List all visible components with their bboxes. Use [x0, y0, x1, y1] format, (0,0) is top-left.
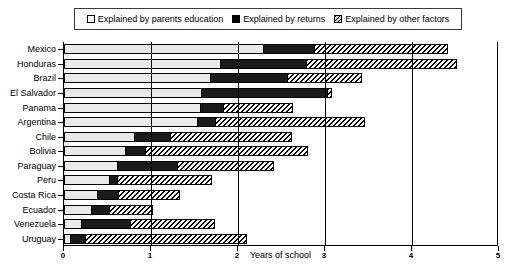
- bar-segment-parents-education: [64, 234, 71, 244]
- bar-segment-other-factors: [118, 175, 212, 185]
- legend-label: Explained by parents education: [98, 15, 224, 24]
- table-row: [64, 44, 497, 54]
- stacked-bar-chart: Explained by parents education Explained…: [0, 0, 514, 274]
- bar-segment-other-factors: [119, 190, 180, 200]
- y-axis-tick-label: Chile: [35, 133, 56, 142]
- bar-segment-returns: [98, 190, 119, 200]
- gridline: [151, 42, 152, 245]
- y-axis-tick-label: Brazil: [33, 74, 56, 83]
- white-square-icon: [87, 15, 95, 23]
- chart-legend: Explained by parents education Explained…: [74, 8, 462, 30]
- x-axis-title: Years of school: [250, 251, 311, 260]
- bar-segment-returns: [92, 205, 110, 215]
- bar-segment-returns: [126, 146, 146, 156]
- table-row: [64, 190, 497, 200]
- bar-segment-parents-education: [64, 117, 198, 127]
- table-row: [64, 161, 497, 171]
- bar-segment-other-factors: [131, 219, 215, 229]
- bar-segment-returns: [135, 132, 171, 142]
- bar-segment-returns: [201, 103, 224, 113]
- bar-segment-returns: [110, 175, 118, 185]
- gridline: [238, 42, 239, 245]
- bar-segment-parents-education: [64, 88, 202, 98]
- bar-segment-parents-education: [64, 132, 135, 142]
- y-axis-labels: MexicoHondurasBrazilEl SalvadorPanamaArg…: [0, 42, 63, 246]
- bar-rows: [64, 42, 497, 245]
- legend-label: Explained by other factors: [345, 15, 449, 24]
- y-axis-tick-label: Argentina: [17, 118, 56, 127]
- bar-segment-other-factors: [171, 132, 292, 142]
- plot-area: [63, 42, 498, 246]
- table-row: [64, 117, 497, 127]
- y-axis-tick-label: Bolivia: [29, 147, 56, 156]
- bar-segment-returns: [198, 117, 216, 127]
- bar-segment-other-factors: [110, 205, 153, 215]
- bar-segment-returns: [211, 73, 288, 83]
- y-axis-tick-label: Mexico: [27, 45, 56, 54]
- table-row: [64, 205, 497, 215]
- table-row: [64, 175, 497, 185]
- bar-segment-parents-education: [64, 205, 92, 215]
- y-axis-tick-label: Panama: [22, 104, 56, 113]
- table-row: [64, 59, 497, 69]
- table-row: [64, 73, 497, 83]
- y-axis-tick-label: Peru: [37, 176, 56, 185]
- bar-segment-parents-education: [64, 146, 126, 156]
- y-axis-tick-label: Honduras: [17, 60, 56, 69]
- bar-segment-parents-education: [64, 161, 118, 171]
- bar-segment-returns: [71, 234, 86, 244]
- bar-segment-parents-education: [64, 190, 98, 200]
- y-axis-tick-label: El Salvador: [10, 89, 56, 98]
- x-axis-tick-label: 4: [409, 252, 413, 260]
- bar-segment-other-factors: [328, 88, 332, 98]
- bar-segment-returns: [202, 88, 327, 98]
- x-axis-tick-label: 0: [61, 252, 65, 260]
- x-axis-tick-label: 1: [148, 252, 152, 260]
- bar-segment-other-factors: [178, 161, 274, 171]
- bar-segment-other-factors: [86, 234, 247, 244]
- table-row: [64, 146, 497, 156]
- y-axis-tick-label: Costa Rica: [12, 191, 56, 200]
- legend-item-other-factors: Explained by other factors: [334, 15, 449, 24]
- table-row: [64, 234, 497, 244]
- table-row: [64, 219, 497, 229]
- legend-item-returns: Explained by returns: [232, 15, 325, 24]
- bar-segment-other-factors: [146, 146, 309, 156]
- bar-segment-parents-education: [64, 103, 201, 113]
- bar-segment-returns: [221, 59, 307, 69]
- legend-label: Explained by returns: [243, 15, 325, 24]
- bar-segment-parents-education: [64, 175, 110, 185]
- bar-segment-parents-education: [64, 44, 264, 54]
- black-square-icon: [232, 15, 240, 23]
- x-axis-tick-label: 5: [496, 252, 500, 260]
- bar-segment-returns: [118, 161, 178, 171]
- bar-segment-returns: [264, 44, 314, 54]
- bar-segment-other-factors: [315, 44, 448, 54]
- table-row: [64, 103, 497, 113]
- bar-segment-parents-education: [64, 219, 82, 229]
- bar-segment-returns: [82, 219, 131, 229]
- x-axis-tick-label: 2: [235, 252, 239, 260]
- y-axis-tick-label: Uruguay: [22, 235, 56, 244]
- y-axis-tick-label: Paraguay: [17, 162, 56, 171]
- x-axis-tick-label: 3: [322, 252, 326, 260]
- y-axis-tick-label: Ecuador: [22, 206, 56, 215]
- gridline: [325, 42, 326, 245]
- legend-item-parents-education: Explained by parents education: [87, 15, 224, 24]
- bar-segment-other-factors: [224, 103, 293, 113]
- table-row: [64, 88, 497, 98]
- table-row: [64, 132, 497, 142]
- bar-segment-parents-education: [64, 59, 221, 69]
- bar-segment-parents-education: [64, 73, 211, 83]
- gridline: [412, 42, 413, 245]
- hatched-square-icon: [334, 15, 342, 23]
- bar-segment-other-factors: [307, 59, 458, 69]
- y-axis-tick-label: Venezuela: [14, 220, 56, 229]
